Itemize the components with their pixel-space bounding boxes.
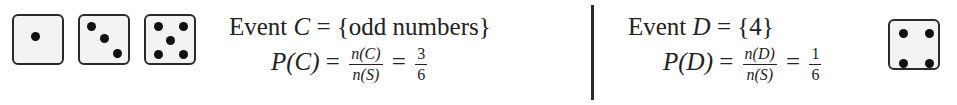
die-face-1: [12, 14, 64, 65]
event-variable: D: [693, 13, 711, 40]
die-pip: [166, 36, 175, 45]
event-d-definition: Event D = {4}: [628, 14, 774, 39]
die-pip: [179, 50, 188, 59]
fraction-denominator: 6: [415, 65, 427, 83]
die-face-5: [144, 14, 196, 65]
probability-symbol: P: [271, 48, 286, 75]
die-pip: [100, 34, 109, 43]
event-word: Event: [628, 13, 686, 40]
fraction-numerator: 3: [415, 46, 427, 65]
fraction-value: 3 6: [415, 46, 427, 83]
die-pip: [925, 59, 934, 68]
die-pip: [113, 49, 122, 58]
die-pip: [179, 22, 188, 31]
die-face-3: [78, 14, 130, 65]
probability-c-formula: P(C) = n(C) n(S) = 3 6: [271, 46, 430, 83]
die-face-4: [888, 19, 940, 70]
die-pip: [154, 50, 163, 59]
event-variable: C: [294, 13, 311, 40]
fraction-denominator: n(S): [349, 65, 382, 83]
event-word: Event: [229, 13, 287, 40]
fraction-denominator: 6: [809, 65, 821, 83]
fraction-denominator: n(S): [743, 65, 777, 83]
equals-sign: =: [317, 13, 331, 40]
die-pip: [154, 22, 163, 31]
event-set: {odd numbers}: [337, 13, 491, 40]
vertical-divider: [591, 5, 594, 100]
probability-argument: (C): [286, 48, 319, 75]
die-pip: [899, 59, 908, 68]
event-set: {4}: [737, 13, 774, 40]
fraction-count-ratio: n(D) n(S): [743, 46, 777, 83]
equals-sign: =: [786, 48, 800, 75]
probability-argument: (D): [678, 48, 713, 75]
equals-sign: =: [392, 48, 406, 75]
fraction-count-ratio: n(C) n(S): [349, 46, 382, 83]
equals-sign: =: [717, 13, 731, 40]
equals-sign: =: [326, 48, 340, 75]
probability-d-formula: P(D) = n(D) n(S) = 1 6: [663, 46, 824, 83]
die-pip: [925, 29, 934, 38]
probability-symbol: P: [663, 48, 678, 75]
die-pip: [899, 29, 908, 38]
fraction-numerator: n(D): [743, 46, 777, 65]
fraction-numerator: 1: [809, 46, 821, 65]
equals-sign: =: [719, 48, 733, 75]
die-pip: [87, 22, 96, 31]
fraction-value: 1 6: [809, 46, 821, 83]
die-pip: [31, 32, 40, 41]
event-c-definition: Event C = {odd numbers}: [229, 14, 491, 39]
fraction-numerator: n(C): [349, 46, 382, 65]
